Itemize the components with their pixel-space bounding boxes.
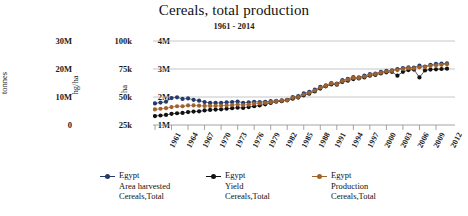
data-point — [423, 65, 427, 69]
plot-area — [153, 34, 455, 134]
data-point — [197, 104, 201, 108]
y-axis-title-hgha: hg/ha — [70, 76, 80, 95]
data-point — [164, 106, 168, 110]
data-point — [412, 66, 416, 70]
data-point — [445, 67, 449, 71]
data-point — [175, 104, 179, 108]
data-point — [169, 105, 173, 109]
legend-element: Yield — [225, 181, 270, 192]
data-point — [158, 113, 162, 117]
data-point — [208, 108, 212, 112]
data-point — [258, 101, 262, 105]
chart-subtitle: 1961 - 2014 — [0, 21, 468, 31]
data-point — [318, 86, 322, 90]
data-point — [302, 92, 306, 96]
data-point — [214, 108, 218, 112]
data-point — [241, 103, 245, 107]
data-point — [169, 96, 173, 100]
data-point — [197, 99, 201, 103]
data-point — [208, 104, 212, 108]
data-point — [428, 64, 432, 68]
data-point — [417, 65, 421, 69]
data-point — [445, 62, 449, 66]
data-point — [180, 111, 184, 115]
data-point — [285, 98, 289, 102]
legend-entry[interactable]: EgyptArea harvestedCereals,Total — [100, 170, 188, 202]
data-point — [406, 66, 410, 70]
y-axis-title-tonnes: tonnes — [0, 72, 9, 94]
data-point — [439, 63, 443, 67]
data-point — [340, 79, 344, 83]
legend-country: Egypt — [119, 170, 170, 181]
legend-entry[interactable]: EgyptYieldCereals,Total — [206, 170, 294, 202]
data-point — [401, 67, 405, 71]
data-point — [384, 69, 388, 73]
data-point — [191, 109, 195, 113]
legend-entry[interactable]: EgyptProductionCereals,Total — [312, 170, 400, 202]
legend-item: Cereals,Total — [225, 191, 270, 202]
legend-item: Cereals,Total — [331, 191, 376, 202]
data-point — [236, 102, 240, 106]
y-axis-tonnes: 30M 20M 10M 0 — [10, 34, 72, 134]
data-point — [191, 103, 195, 107]
data-point — [180, 97, 184, 101]
legend-item: Cereals,Total — [119, 191, 170, 202]
data-point — [346, 78, 350, 82]
legend-country: Egypt — [225, 170, 270, 181]
legend-label: EgyptArea harvestedCereals,Total — [119, 170, 170, 202]
data-point — [169, 112, 173, 116]
data-point — [434, 63, 438, 67]
data-point — [219, 104, 223, 108]
chart-legend: EgyptArea harvestedCereals,TotalEgyptYie… — [100, 170, 400, 202]
data-point — [175, 95, 179, 99]
legend-marker-icon — [312, 172, 327, 181]
data-point — [247, 102, 251, 106]
legend-country: Egypt — [331, 170, 376, 181]
data-point — [335, 82, 339, 86]
data-point — [379, 71, 383, 75]
data-point — [202, 100, 206, 104]
data-point — [158, 107, 162, 111]
data-point — [307, 91, 311, 95]
data-point — [329, 81, 333, 85]
legend-label: EgyptYieldCereals,Total — [225, 170, 270, 202]
y-axis-title-ha: ha — [119, 85, 129, 93]
data-point — [439, 67, 443, 71]
data-point — [153, 107, 157, 111]
series-line-1 — [155, 69, 447, 116]
data-point — [164, 100, 168, 104]
data-point — [357, 76, 361, 80]
data-point — [153, 101, 157, 105]
data-point — [368, 73, 372, 77]
data-point — [274, 99, 278, 103]
data-point — [214, 104, 218, 108]
data-point — [395, 74, 399, 78]
data-point — [373, 72, 377, 76]
data-point — [153, 114, 157, 118]
data-point — [230, 103, 234, 107]
data-point — [219, 107, 223, 111]
legend-marker-icon — [100, 172, 115, 181]
data-point — [269, 100, 273, 104]
data-point — [180, 104, 184, 108]
data-point — [158, 101, 162, 105]
legend-element: Area harvested — [119, 181, 170, 192]
data-point — [191, 98, 195, 102]
data-point — [164, 113, 168, 117]
data-point — [390, 69, 394, 73]
data-point — [313, 88, 317, 92]
plot-svg — [153, 34, 455, 148]
data-point — [263, 101, 267, 105]
legend-marker-icon — [206, 172, 221, 181]
chart-container: Cereals, total production 1961 - 2014 30… — [0, 0, 468, 216]
data-point — [428, 67, 432, 71]
chart-title: Cereals, total production — [0, 2, 468, 19]
data-point — [197, 109, 201, 113]
data-point — [252, 102, 256, 106]
data-point — [202, 108, 206, 112]
data-point — [186, 96, 190, 100]
data-point — [362, 74, 366, 78]
data-point — [324, 84, 328, 88]
data-point — [296, 95, 300, 99]
data-point — [434, 67, 438, 71]
